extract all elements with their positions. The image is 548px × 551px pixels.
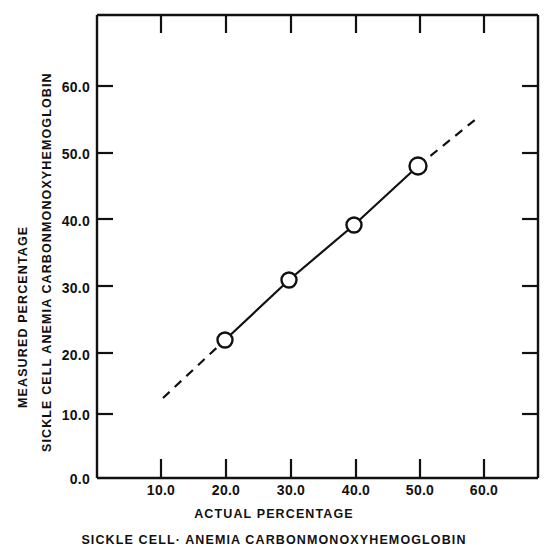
data-point-2	[282, 273, 297, 288]
data-point-1	[218, 333, 233, 348]
lower-dashed-extension	[163, 340, 225, 398]
y-axis-ticks-left	[97, 86, 113, 414]
plot-area	[0, 0, 548, 551]
data-point-4	[410, 158, 427, 175]
figure-panel: MEASURED PERCENTAGE SICKLE CELL ANEMIA C…	[0, 0, 548, 551]
data-point-3	[347, 218, 362, 233]
upper-dashed-extension	[418, 119, 476, 166]
x-axis-ticks-top	[161, 15, 484, 33]
axis-frame	[97, 15, 538, 478]
y-axis-ticks-right	[522, 86, 538, 414]
fit-line	[225, 166, 418, 340]
x-axis-ticks-bottom	[161, 459, 484, 478]
figure-subcaption: SICKLE CELL· ANEMIA CARBONMONOXYHEMOGLOB…	[0, 533, 548, 547]
x-axis-label: ACTUAL PERCENTAGE	[0, 507, 548, 521]
